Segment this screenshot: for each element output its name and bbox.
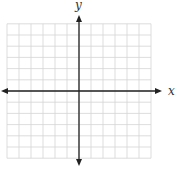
x-axis-label: x <box>168 84 175 98</box>
axes <box>1 15 162 166</box>
y-axis-up-arrow-icon <box>76 15 82 22</box>
y-axis-down-arrow-icon <box>76 159 82 166</box>
x-axis-right-arrow-icon <box>155 88 162 94</box>
x-axis-left-arrow-icon <box>1 88 8 94</box>
coordinate-plane: x y <box>0 0 182 172</box>
y-axis-label: y <box>74 0 82 12</box>
